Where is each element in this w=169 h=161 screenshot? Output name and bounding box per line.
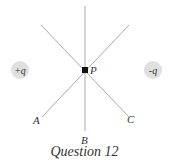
negative-charge-label: -q — [149, 65, 157, 76]
line-a-label: A — [32, 114, 40, 126]
field-diagram: +q -q P A B C — [0, 0, 169, 161]
figure-caption: Question 12 — [0, 144, 169, 160]
point-p-label: P — [89, 64, 97, 76]
positive-charge-label: +q — [14, 65, 26, 76]
point-p — [82, 67, 88, 73]
line-c-label: C — [127, 113, 135, 125]
